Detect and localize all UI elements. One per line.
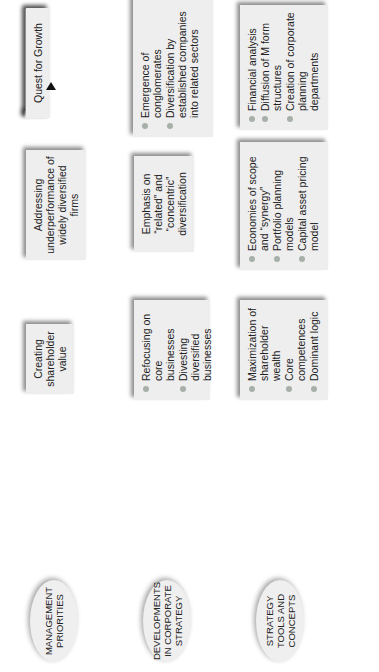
list-item: Creation of corporate planning departmen… xyxy=(284,11,320,122)
list-item: Diffusion of M form structures xyxy=(259,11,283,122)
row-label-strategy-tools: STRATEGY TOOLS AND CONCEPTS xyxy=(256,580,304,662)
priority-text: Creating shareholder value xyxy=(32,328,68,390)
priority-text: Addressing underperformance of widely di… xyxy=(32,154,80,256)
list-item: Divesting diversified businesses xyxy=(177,306,213,392)
strategy-box-1980s: Emphasis on “related” and “concentric” d… xyxy=(134,156,194,252)
strategy-list-1990s: Refocusing on core businesses Divesting … xyxy=(134,300,220,400)
list-item: Portfolio planning models xyxy=(271,148,295,262)
list-item: Economies of scope and “synergy” xyxy=(246,148,270,262)
corporate-strategy-timeline-diagram: MANAGEMENT PRIORITIES DEVELOPMENTS IN CO… xyxy=(0,0,379,672)
priority-text: Quest for Growth xyxy=(32,23,44,103)
list-item: Diversification by established companies… xyxy=(164,3,200,129)
list-item: Financial analysis xyxy=(246,11,258,122)
tools-list-1990s: Maximization of shareholder wealth Core … xyxy=(240,300,327,400)
strategy-box-1990s: Refocusing on core businesses Divesting … xyxy=(134,300,210,400)
row-label-developments-corporate-strategy: DEVELOPMENTS IN CORPORATE STRATEGY xyxy=(143,580,191,662)
strategy-text: Emphasis on “related” and “concentric” d… xyxy=(140,160,188,248)
list-item: Maximization of shareholder wealth xyxy=(246,306,282,392)
priority-box-addressing-underperformance: Addressing underperformance of widely di… xyxy=(26,150,86,260)
strategy-box-1960s: Emergence of conglomerates Diversificati… xyxy=(133,0,213,137)
priority-box-quest-for-growth-visible: Quest for Growth xyxy=(26,8,50,118)
tools-box-1960s: Financial analysis Diffusion of M form s… xyxy=(240,5,328,130)
priority-box-creating-shareholder-value: Creating shareholder value xyxy=(26,324,74,394)
tools-list-1960s: Financial analysis Diffusion of M form s… xyxy=(240,5,327,130)
list-item: Core competences xyxy=(283,306,307,392)
list-item: Capital asset pricing model xyxy=(296,148,320,262)
list-item: Emergence of conglomerates xyxy=(139,3,163,129)
row-label-text: MANAGEMENT PRIORITIES xyxy=(43,580,65,662)
row-label-text: STRATEGY TOOLS AND CONCEPTS xyxy=(264,580,297,662)
tools-box-1990s: Maximization of shareholder wealth Core … xyxy=(240,300,328,400)
strategy-list-1960s: Emergence of conglomerates Diversificati… xyxy=(133,0,207,137)
row-label-management-priorities: MANAGEMENT PRIORITIES xyxy=(30,580,78,662)
tools-box-1980s: Economies of scope and “synergy” Portfol… xyxy=(240,142,328,270)
tools-list-1980s: Economies of scope and “synergy” Portfol… xyxy=(240,142,327,270)
list-item: Dominant logic xyxy=(308,306,320,392)
row-label-text: DEVELOPMENTS IN CORPORATE STRATEGY xyxy=(151,580,184,662)
list-item: Refocusing on core businesses xyxy=(140,306,176,392)
